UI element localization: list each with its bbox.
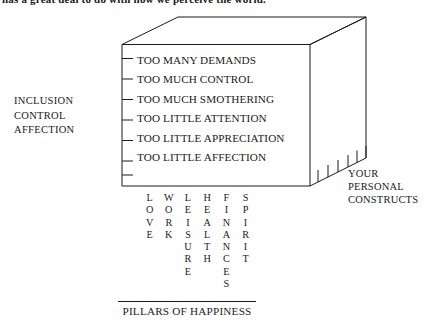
pillar-letter: V bbox=[146, 217, 153, 229]
pillar-letter: U bbox=[184, 241, 191, 253]
pillar-letter: C bbox=[223, 253, 230, 265]
front-face-row: TOO LITTLE ATTENTION bbox=[137, 109, 317, 128]
pillar-letter: N bbox=[223, 217, 230, 229]
pillar-column: LEISURE bbox=[178, 192, 197, 290]
front-face-row: TOO LITTLE AFFECTION bbox=[137, 148, 317, 167]
left-axis-label-group: INCLUSION CONTROL AFFECTION bbox=[14, 94, 74, 138]
front-face-row: TOO MANY DEMANDS bbox=[137, 51, 317, 70]
left-axis-label-affection: AFFECTION bbox=[14, 123, 74, 138]
pillar-column: SPIRIT bbox=[236, 192, 255, 290]
front-face-row-group: TOO MANY DEMANDS TOO MUCH CONTROL TOO MU… bbox=[137, 51, 317, 167]
pillar-letter: R bbox=[242, 229, 249, 241]
right-axis-label-line: CONSTRUCTS bbox=[348, 193, 418, 206]
pillar-letter: F bbox=[224, 192, 230, 204]
pillar-letter: H bbox=[203, 192, 210, 204]
front-face-row: TOO LITTLE APPRECIATION bbox=[137, 129, 317, 148]
cube-top-face bbox=[122, 17, 366, 45]
pillar-letter: I bbox=[244, 241, 247, 253]
pillar-column: HEALTH bbox=[198, 192, 217, 290]
right-axis-label-line: YOUR bbox=[348, 167, 418, 180]
pillar-letter: I bbox=[244, 217, 247, 229]
pillar-letter: W bbox=[164, 192, 174, 204]
pillar-letter: S bbox=[224, 278, 230, 290]
pillar-letter: L bbox=[146, 192, 152, 204]
pillar-letter: O bbox=[165, 204, 172, 216]
pillar-letter: L bbox=[185, 192, 191, 204]
pillar-column: FINANCES bbox=[217, 192, 236, 290]
pillar-letter: N bbox=[223, 241, 230, 253]
right-axis-label-line: PERSONAL bbox=[348, 180, 418, 193]
pillar-column-group: LOVEWORKLEISUREHEALTHFINANCESSPIRIT bbox=[140, 192, 255, 290]
pillar-letter: S bbox=[185, 229, 191, 241]
pillar-letter: R bbox=[165, 217, 172, 229]
caption-label: PILLARS OF HAPPINESS bbox=[118, 305, 256, 317]
pillar-letter: L bbox=[204, 229, 210, 241]
pillar-letter: E bbox=[146, 229, 152, 241]
pillar-letter: H bbox=[203, 253, 210, 265]
pillar-letter: E bbox=[185, 266, 191, 278]
front-face-row: TOO MUCH SMOTHERING bbox=[137, 90, 317, 109]
pillar-letter: E bbox=[185, 204, 191, 216]
right-axis-label-group: YOUR PERSONAL CONSTRUCTS bbox=[348, 167, 418, 207]
pillar-column: LOVE bbox=[140, 192, 159, 290]
pillar-letter: E bbox=[223, 266, 229, 278]
pillar-letter: I bbox=[225, 204, 228, 216]
pillar-letter: S bbox=[243, 192, 249, 204]
pillar-letter: P bbox=[243, 204, 249, 216]
pillar-letter: R bbox=[185, 253, 192, 265]
pillar-letter: A bbox=[203, 217, 210, 229]
left-axis-label-control: CONTROL bbox=[14, 109, 74, 124]
pillar-letter: K bbox=[165, 229, 172, 241]
pillar-letter: O bbox=[146, 204, 153, 216]
pillar-column: WORK bbox=[159, 192, 178, 290]
pillar-letter: T bbox=[242, 253, 248, 265]
pillar-letter: A bbox=[223, 229, 230, 241]
front-face-row: TOO MUCH CONTROL bbox=[137, 70, 317, 89]
caption-rule bbox=[118, 301, 256, 302]
pillar-letter: T bbox=[204, 241, 210, 253]
pillar-letter: E bbox=[204, 204, 210, 216]
left-edge-ticks bbox=[122, 59, 133, 176]
left-axis-label-inclusion: INCLUSION bbox=[14, 94, 74, 109]
pillar-letter: I bbox=[186, 217, 189, 229]
